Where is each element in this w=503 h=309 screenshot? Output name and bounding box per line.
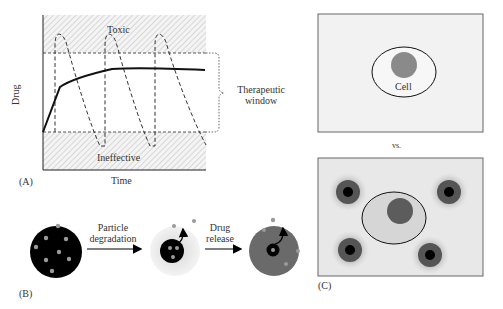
- cell-label: Cell: [395, 81, 412, 92]
- panel-a-chart: [43, 15, 224, 170]
- cell-nucleus-treated: [387, 198, 413, 224]
- drug-particle-3: [331, 231, 369, 269]
- drug-particle-1: [329, 173, 367, 211]
- therapeutic-window-label: Therapeutic window: [228, 84, 294, 106]
- y-axis-label: Drug: [10, 84, 21, 105]
- toxic-label: Toxic: [107, 24, 130, 35]
- panel-c-top-box: [318, 14, 483, 132]
- particle-degradation-label: Particle degradation: [84, 222, 142, 244]
- drug-particle-4: [411, 236, 449, 274]
- vs-label: vs.: [392, 140, 401, 151]
- panel-b-diagram: [30, 218, 300, 278]
- drug-particle-2: [430, 173, 468, 211]
- releasing-particle: [249, 218, 300, 276]
- ineffective-region: [43, 132, 206, 170]
- panel-a-label: (A): [19, 176, 33, 187]
- intact-particle: [30, 224, 82, 278]
- figure-canvas: [0, 0, 503, 309]
- therapeutic-window-brace: [206, 53, 224, 132]
- x-axis-label: Time: [111, 175, 132, 186]
- cell-nucleus: [391, 52, 417, 78]
- panel-b-label: (B): [19, 288, 32, 299]
- ineffective-label: Ineffective: [97, 152, 140, 163]
- panel-c-bottom-box: [318, 158, 483, 276]
- sustained-release-curve: [43, 68, 205, 132]
- degrading-particle: [150, 219, 200, 276]
- panel-c-label: (C): [318, 280, 331, 291]
- drug-release-label: Drug release: [200, 222, 240, 244]
